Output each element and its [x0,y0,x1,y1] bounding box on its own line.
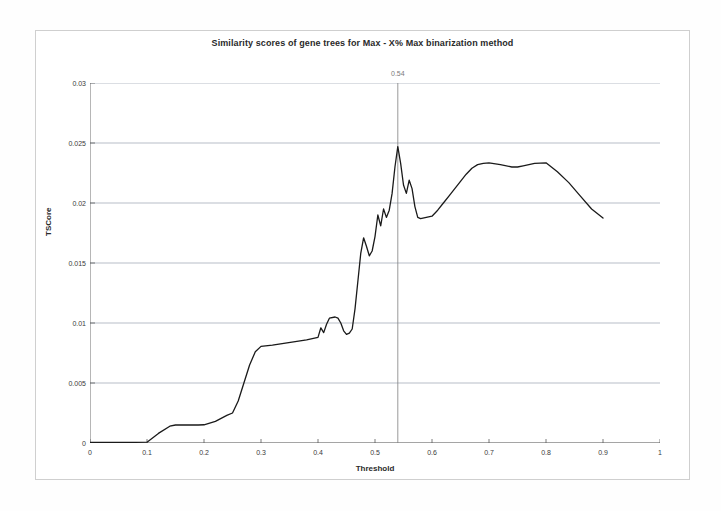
data-series-line [90,147,603,443]
x-tick-label: 0.7 [469,449,509,456]
x-tick-label: 1 [640,449,680,456]
x-tick-label: 0.6 [412,449,452,456]
y-tick-label: 0.01 [42,320,86,327]
x-tick-label: 0.8 [526,449,566,456]
x-tick-label: 0.9 [583,449,623,456]
y-axis-tick-labels: 00.0050.010.0150.020.0250.03 [38,83,86,443]
x-tick-label: 0.1 [127,449,167,456]
x-tick-label: 0.3 [241,449,281,456]
x-tick-label: 0.5 [355,449,395,456]
vertical-marker-label: 0.54 [391,70,405,77]
y-tick-label: 0.025 [42,140,86,147]
x-axis-tick-labels: 00.10.20.30.40.50.60.70.80.91 [90,449,660,465]
x-tick-label: 0 [70,449,110,456]
plot-svg [90,83,660,443]
y-tick-label: 0.005 [42,380,86,387]
y-tick-label: 0 [42,440,86,447]
x-tick-label: 0.4 [298,449,338,456]
y-axis-tick-marks [90,83,95,443]
x-axis-label: Threshold [90,464,660,473]
y-tick-label: 0.03 [42,80,86,87]
x-tick-label: 0.2 [184,449,224,456]
y-tick-label: 0.02 [42,200,86,207]
x-axis-tick-marks [90,439,660,443]
chart-title: Similarity scores of gene trees for Max … [35,38,690,48]
chart-figure: Similarity scores of gene trees for Max … [0,0,721,511]
plot-area [90,83,660,443]
y-tick-label: 0.015 [42,260,86,267]
